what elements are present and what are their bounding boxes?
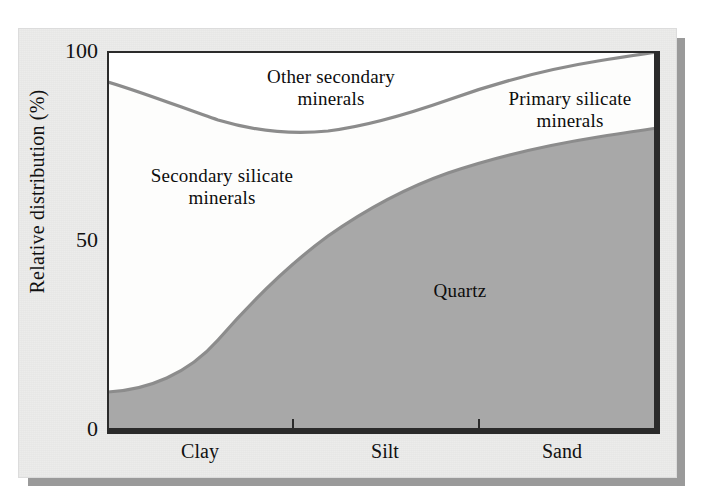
x-category-silt: Silt bbox=[371, 440, 399, 463]
y-tick-100: 100 bbox=[52, 40, 98, 62]
y-axis-tick-group: 100 50 0 bbox=[46, 0, 98, 503]
figure-container: Relative distribution (%) 100 50 0 Clay … bbox=[0, 0, 701, 503]
y-tick-50: 50 bbox=[52, 229, 98, 251]
area-label-secondary-silicate-minerals: Secondary silicate minerals bbox=[122, 165, 322, 209]
x-category-sand: Sand bbox=[542, 440, 582, 463]
x-tick-clay-silt-boundary bbox=[292, 419, 294, 430]
plot-frame-top bbox=[108, 51, 659, 53]
area-label-primary-silicate-minerals: Primary silicate minerals bbox=[480, 88, 660, 132]
area-label-other-secondary-minerals: Other secondary minerals bbox=[236, 66, 426, 110]
area-label-quartz: Quartz bbox=[400, 280, 520, 302]
x-tick-silt-sand-boundary bbox=[478, 419, 480, 430]
x-category-clay: Clay bbox=[181, 440, 219, 463]
plot-frame-bottom bbox=[107, 428, 660, 434]
y-tick-0: 0 bbox=[52, 418, 98, 440]
plot-frame-left bbox=[107, 51, 109, 431]
